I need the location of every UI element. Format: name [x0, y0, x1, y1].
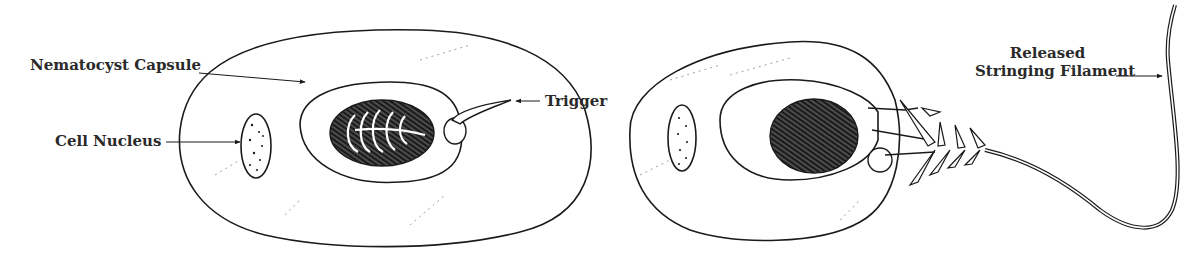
label-released-line1: Released: [975, 44, 1120, 62]
operculum-open: [868, 148, 892, 172]
nematocyst-diagram: [0, 0, 1192, 263]
capsule-contents-discharged: [770, 99, 858, 173]
trigger-cnidocil: [452, 100, 511, 124]
cell-nucleus-discharged: [668, 105, 696, 171]
label-nematocyst-capsule: Nematocyst Capsule: [30, 56, 201, 74]
label-cell-nucleus: Cell Nucleus: [55, 132, 161, 150]
label-released-line2: Stringing Filament: [975, 62, 1120, 80]
barbs: [900, 100, 985, 185]
panel-undischarged: [166, 30, 591, 247]
panel-discharged: [630, 5, 1178, 240]
label-trigger: Trigger: [545, 92, 607, 110]
cell-nucleus: [241, 114, 271, 178]
label-released-filament: Released Stringing Filament: [975, 44, 1120, 80]
released-filament: [985, 5, 1178, 228]
